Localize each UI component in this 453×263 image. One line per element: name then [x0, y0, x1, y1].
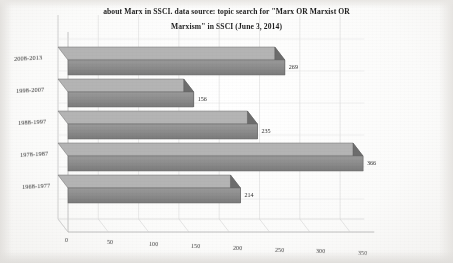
bar-group: [58, 143, 363, 171]
x-axis-tick-label: 150: [191, 243, 201, 249]
chart-plot-area: [0, 0, 453, 263]
bar-group: [58, 47, 285, 75]
category-label: 1988-1997: [18, 118, 47, 126]
x-axis-tick-label: 350: [358, 250, 368, 256]
bar-group: [58, 111, 257, 139]
x-axis-tick-label: 0: [65, 237, 68, 243]
x-axis-tick-label: 200: [232, 244, 242, 250]
bar-value-label: 235: [261, 128, 270, 134]
bar-value-label: 156: [198, 96, 207, 102]
x-axis-tick-label: 100: [149, 241, 159, 247]
x-axis-tick-label: 250: [274, 246, 284, 252]
category-label: 2008-2013: [14, 54, 43, 62]
bar-value-label: 366: [367, 160, 376, 166]
bar-value-label: 269: [289, 64, 298, 70]
chart-svg: [0, 0, 453, 263]
x-axis-tick-label: 50: [107, 239, 113, 245]
bar-group: [58, 175, 240, 203]
category-label: 1998-2007: [16, 86, 45, 94]
bar-value-label: 214: [244, 192, 253, 198]
category-label: 1978-1987: [20, 150, 49, 158]
bar-group: [58, 79, 194, 107]
category-label: 1968-1977: [22, 182, 51, 190]
x-axis-tick-label: 300: [316, 248, 326, 254]
